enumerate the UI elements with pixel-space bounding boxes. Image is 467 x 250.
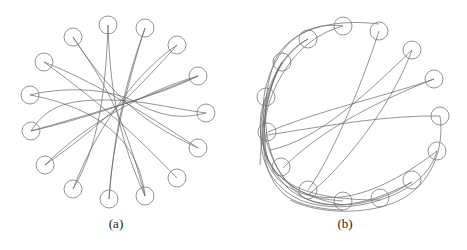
panel-b-caption: (b) bbox=[315, 216, 375, 232]
panel-b-diagram bbox=[233, 0, 467, 250]
trajectory-path bbox=[283, 79, 434, 168]
trajectory-path bbox=[30, 95, 145, 196]
trajectory-path bbox=[308, 50, 412, 195]
trajectory-path bbox=[270, 50, 412, 150]
trajectory-path bbox=[73, 25, 108, 189]
panel-b: (b) bbox=[233, 0, 467, 250]
target-circle bbox=[272, 158, 290, 176]
target-circle bbox=[403, 171, 421, 189]
trajectory-path bbox=[308, 31, 379, 190]
trajectory-path bbox=[263, 25, 412, 205]
panel-a-caption: (a) bbox=[86, 216, 146, 232]
trajectory-path bbox=[264, 62, 380, 200]
panel-a-diagram bbox=[0, 0, 233, 250]
trajectory-path bbox=[30, 90, 206, 116]
panel-a: (a) bbox=[0, 0, 233, 250]
trajectory-path bbox=[268, 116, 440, 135]
trajectory-path bbox=[73, 45, 177, 189]
trajectory-path bbox=[44, 62, 177, 178]
